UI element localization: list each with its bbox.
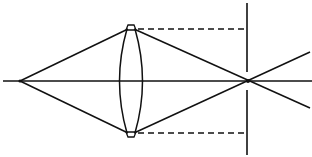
image-point [246,79,250,83]
refracted-ray-upper [134,29,310,108]
object-point [18,79,21,82]
incident-ray-lower [20,81,128,133]
incident-ray-upper [20,29,128,81]
refracted-ray-lower [134,52,310,133]
lens-ray-diagram [0,0,312,157]
